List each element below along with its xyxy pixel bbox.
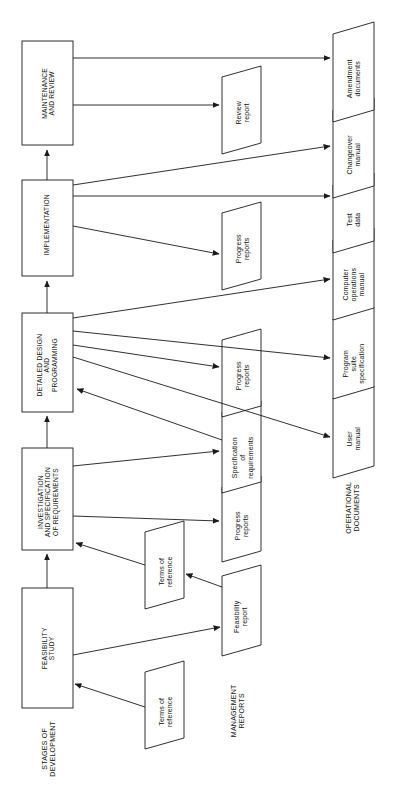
connector-detailed-design-to-user-manual bbox=[73, 357, 330, 437]
connector-implementation-to-progress-reports bbox=[73, 226, 219, 254]
doc-shape-progress-reports-implementation[interactable] bbox=[222, 202, 261, 290]
connector-feasibility-report-to-terms-upper bbox=[186, 574, 222, 587]
stage-box-maintenance-and-review[interactable] bbox=[22, 41, 73, 145]
doc-shape-progress-reports-design[interactable] bbox=[222, 329, 261, 417]
doc-shape-feasibility-report[interactable] bbox=[222, 565, 261, 656]
connector-investigation-to-progress-reports bbox=[73, 516, 219, 521]
stage-box-implementation[interactable] bbox=[22, 180, 73, 276]
stage-box-detailed-design-and-programming[interactable] bbox=[22, 313, 73, 412]
diagram-canvas: MAINTENANCE AND REVIEW IMPLEMENTATION DE… bbox=[0, 0, 404, 795]
connector-detailed-design-to-program-suite-spec bbox=[73, 331, 330, 358]
doc-shape-program-suite-specification[interactable] bbox=[333, 307, 374, 399]
connector-investigation-to-specification bbox=[73, 451, 219, 466]
doc-shape-user-manual[interactable] bbox=[333, 386, 374, 478]
diagram-vector-layer bbox=[0, 0, 404, 795]
doc-shape-terms-of-reference-upper[interactable] bbox=[145, 521, 184, 609]
doc-shape-amendment-documents[interactable] bbox=[333, 22, 374, 122]
connector-detailed-design-to-computer-ops-manual bbox=[73, 279, 330, 318]
connector-feasibility-to-feasibility-report bbox=[73, 627, 220, 655]
stage-box-feasibility-study[interactable] bbox=[22, 588, 73, 708]
connector-terms-lower-to-feasibility bbox=[75, 684, 145, 707]
connector-implementation-to-changeover-manual bbox=[73, 146, 330, 185]
connector-terms-upper-to-investigation bbox=[76, 543, 145, 565]
doc-shape-review-report[interactable] bbox=[222, 66, 261, 154]
stage-box-investigation-and-specification-of-requirements[interactable] bbox=[22, 448, 73, 550]
doc-shape-terms-of-reference-lower[interactable] bbox=[145, 661, 184, 749]
